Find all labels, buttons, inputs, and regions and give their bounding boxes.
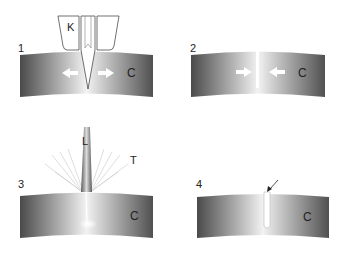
panel-number: 3	[18, 178, 24, 190]
panel-3: 3 L T C	[18, 127, 153, 238]
material-label: C	[130, 209, 139, 223]
knife-right-jaw	[97, 16, 119, 50]
tool-label: K	[67, 21, 75, 33]
material-label: C	[127, 66, 136, 80]
cut-groove	[264, 192, 270, 228]
panel-number: 4	[196, 178, 202, 190]
arrow-pointer-icon	[267, 186, 272, 192]
material-label: C	[298, 66, 307, 80]
panel-2: 2 C	[190, 42, 325, 97]
spark-burst	[79, 219, 97, 229]
panel-4: 4 C	[196, 178, 329, 238]
rays-label: T	[130, 154, 137, 166]
panel-number: 2	[190, 42, 196, 54]
panel-1: 1 K C	[18, 16, 153, 97]
cutting-process-diagram: 1 K C 2 C 3	[0, 0, 342, 254]
pointer-arrow-line	[270, 180, 278, 189]
beam-label: L	[82, 135, 88, 147]
cut-slit	[256, 51, 259, 88]
panel-number: 1	[18, 42, 24, 54]
material-label: C	[303, 210, 312, 224]
